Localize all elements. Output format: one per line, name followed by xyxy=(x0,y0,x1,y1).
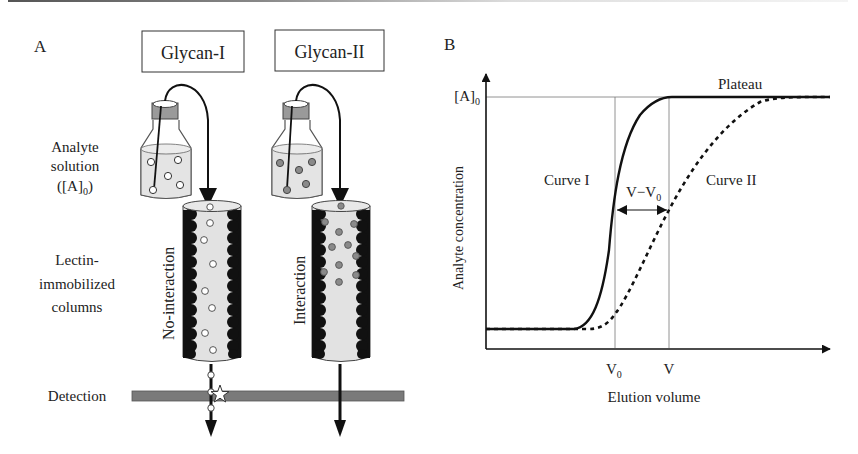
interaction-label: Interaction xyxy=(291,256,308,325)
detection-label: Detection xyxy=(48,388,107,404)
x-tick-v: V xyxy=(664,361,675,377)
analyte-bottle-i xyxy=(141,85,217,207)
analyte-solution-label: Analyte solution ([A]0) xyxy=(51,139,100,197)
plateau-label: Plateau xyxy=(718,76,763,92)
x-tick-v0: V0 xyxy=(606,361,622,380)
delta-v-label: V−V0 xyxy=(626,184,661,203)
x-axis-label: Elution volume xyxy=(608,389,701,405)
panel-a: A Glycan-I Glycan-II Analyte solution ([… xyxy=(34,30,404,437)
curve-i-line xyxy=(486,97,830,329)
glycan-ii-box: Glycan-II xyxy=(275,30,384,71)
y-tick-a0: [A]0 xyxy=(454,88,480,107)
panel-b: B [A]0 Analyte concentration V0 V Elutio… xyxy=(444,35,830,405)
panel-a-label: A xyxy=(34,37,47,56)
svg-text:Analyte: Analyte xyxy=(51,139,99,155)
glycan-ii-label: Glycan-II xyxy=(295,42,365,62)
column-interaction: Interaction xyxy=(291,201,370,438)
lectin-columns-label: Lectin- immobilized columns xyxy=(39,252,115,315)
analyte-bottle-ii xyxy=(272,85,349,207)
curve-ii-label: Curve II xyxy=(706,172,756,188)
svg-text:Lectin-: Lectin- xyxy=(55,252,98,268)
svg-text:solution: solution xyxy=(51,158,100,174)
svg-text:([A]0): ([A]0) xyxy=(57,178,93,197)
detection-bar xyxy=(132,391,404,401)
no-interaction-label: No-interaction xyxy=(160,247,177,340)
svg-text:columns: columns xyxy=(52,299,103,315)
glycan-i-box: Glycan-I xyxy=(142,31,244,72)
column-no-interaction: No-interaction xyxy=(160,201,241,438)
y-axis-label: Analyte concentration xyxy=(451,166,466,290)
panel-b-label: B xyxy=(444,35,455,54)
glycan-i-label: Glycan-I xyxy=(161,43,225,63)
curve-ii-line xyxy=(486,97,830,329)
curve-i-label: Curve I xyxy=(544,172,589,188)
figure-canvas: A Glycan-I Glycan-II Analyte solution ([… xyxy=(0,0,858,454)
svg-text:immobilized: immobilized xyxy=(39,276,115,292)
